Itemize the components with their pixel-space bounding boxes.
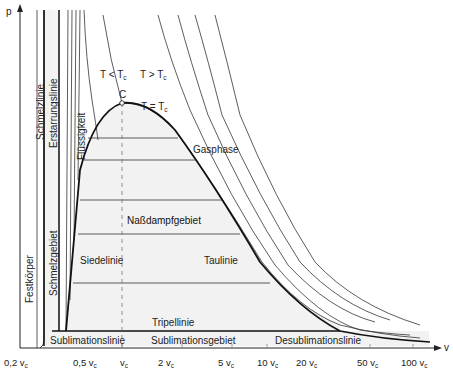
- x-tick-8: 100 vc: [401, 357, 428, 369]
- x-tick-5: 10 vc: [257, 357, 279, 369]
- tripellinie-label: Tripellinie: [152, 317, 195, 328]
- x-axis-label: v: [444, 342, 449, 353]
- schmelzgebiet-label: Schmelzgebiet: [48, 230, 59, 296]
- x-tick-2: vc: [120, 357, 129, 369]
- isotherm-below-label: T < Tc: [100, 69, 127, 81]
- critical-point-marker: [120, 101, 125, 106]
- critical-point-label: C: [119, 89, 126, 100]
- nassdampfgebiet-label: Naßdampfgebiet: [127, 215, 201, 226]
- gasphase-label: Gasphase: [193, 144, 239, 155]
- sublimationslinie-label: Sublimationslinie: [50, 335, 125, 346]
- pv-diagram: p v Schmelzlinie Erstarrungslinie Flüssi…: [0, 0, 453, 380]
- isotherm-critical-label: T = Tc: [141, 101, 168, 113]
- x-tick-3: 2 vc: [158, 357, 175, 369]
- schmelzlinie-label: Schmelzlinie: [35, 83, 46, 140]
- fluessigkeit-label: Flüssigkeit: [76, 113, 87, 160]
- x-tick-0: 0,2 vc: [4, 357, 29, 369]
- sublimationsgebiet-label: Sublimationsgebiet: [151, 335, 236, 346]
- siedelinie-label: Siedelinie: [80, 255, 124, 266]
- desublimationslinie-label: Desublimationslinie: [275, 335, 362, 346]
- nassdampf-shade: [66, 103, 340, 331]
- festkoerper-label: Festkörper: [24, 255, 35, 303]
- isotherm-above-label: T > Tc: [140, 69, 167, 81]
- x-tick-7: 50 vc: [357, 357, 379, 369]
- y-axis-label: p: [6, 6, 12, 17]
- liquid-iso-1: [66, 10, 68, 331]
- x-tick-6: 20 vc: [296, 357, 318, 369]
- taulinie-label: Taulinie: [204, 255, 238, 266]
- erstarrungslinie-label: Erstarrungslinie: [48, 78, 59, 148]
- x-axis-arrow-icon: [434, 345, 442, 351]
- y-axis-arrow-icon: [17, 4, 23, 12]
- x-tick-1: 0,5 vc: [73, 357, 98, 369]
- x-tick-4: 5 vc: [218, 357, 235, 369]
